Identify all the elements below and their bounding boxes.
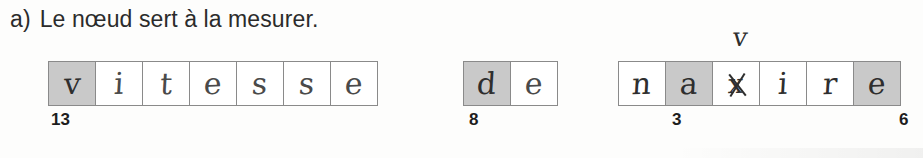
correction-mark: v xyxy=(731,22,749,52)
letter-cell[interactable]: v xyxy=(48,61,96,106)
score-label: 8 xyxy=(469,110,478,130)
letter-glyph: e xyxy=(524,68,544,98)
score-label: 3 xyxy=(672,110,681,130)
letter-cell[interactable]: d xyxy=(463,61,511,106)
letter-cell[interactable]: e xyxy=(330,61,378,106)
letter-cell-struck[interactable]: x xyxy=(712,61,760,106)
answer-grid-vitesse: v i t e s s e xyxy=(48,61,377,106)
letter-cell[interactable]: a xyxy=(665,61,713,106)
letter-cell[interactable]: e xyxy=(189,61,237,106)
letter-glyph: t xyxy=(159,68,173,98)
prompt-line: a)Le nœud sert à la mesurer. xyxy=(10,6,318,33)
letter-cell[interactable]: s xyxy=(236,61,284,106)
letter-cell[interactable]: t xyxy=(142,61,190,106)
letter-glyph: s xyxy=(298,68,315,98)
letter-glyph: e xyxy=(344,68,364,98)
letter-cell[interactable]: e xyxy=(510,61,558,106)
question-marker: a) xyxy=(10,6,31,33)
question-sentence: Le nœud sert à la mesurer. xyxy=(40,6,319,33)
worksheet-page: a)Le nœud sert à la mesurer. v i t e s s… xyxy=(0,0,923,158)
letter-glyph: i xyxy=(113,68,124,98)
scan-edge-artifact xyxy=(673,148,923,158)
letter-glyph: e xyxy=(203,68,223,98)
letter-glyph: r xyxy=(822,68,838,98)
answer-grid-de: d e xyxy=(463,61,557,106)
letter-glyph: e xyxy=(867,68,887,98)
letter-glyph: x xyxy=(728,70,745,97)
answer-grid-navire: n a x i r e xyxy=(618,61,900,106)
letter-cell[interactable]: r xyxy=(806,61,854,106)
letter-glyph: n xyxy=(631,68,652,98)
letter-cell[interactable]: e xyxy=(853,61,901,106)
letter-cell[interactable]: s xyxy=(283,61,331,106)
letter-glyph: v xyxy=(63,68,82,98)
letter-glyph: s xyxy=(251,68,268,98)
letter-cell[interactable]: n xyxy=(618,61,666,106)
letter-cell[interactable]: i xyxy=(759,61,807,106)
score-label: 13 xyxy=(51,110,70,130)
letter-glyph: d xyxy=(476,68,497,98)
letter-glyph: a xyxy=(679,68,699,98)
letter-glyph: i xyxy=(777,68,788,98)
score-label: 6 xyxy=(899,110,908,130)
letter-cell[interactable]: i xyxy=(95,61,143,106)
